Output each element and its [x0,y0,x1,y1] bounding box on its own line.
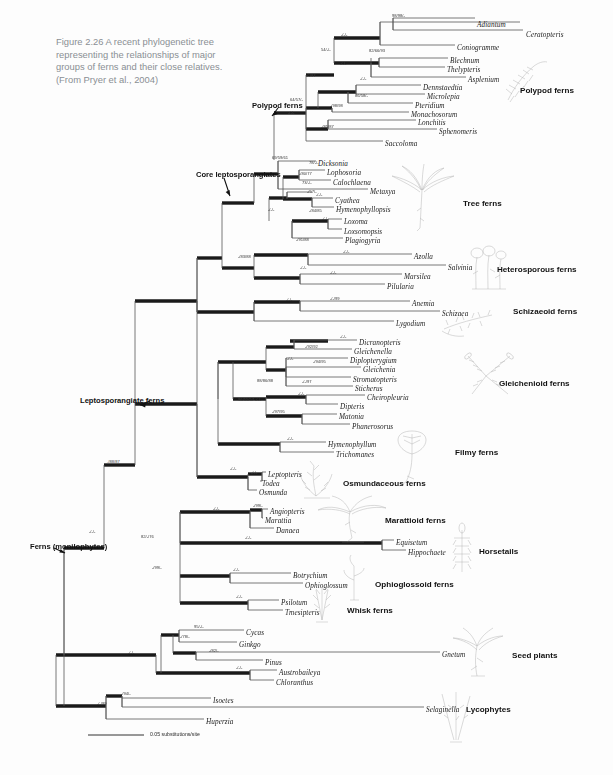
group-label: Seed plants [512,651,557,660]
support-value: -/-/99 [97,701,107,706]
taxon-label: Plagiogyria [345,237,380,245]
filmy-fern-sketch [398,431,426,486]
group-label: Filmy ferns [455,448,498,457]
ophioglossoid-fern-sketch [344,555,364,600]
taxon-label: Hymenophyllum [328,441,376,449]
clade-label: Leptosporangiate ferns [80,396,164,405]
taxon-label: Tmesipteris [285,609,320,617]
support-value: -/-/- [89,529,95,534]
support-value: -/-/99 [330,296,340,301]
support-value: 69/59/61 [272,155,288,160]
taxon-label: Leptopteris [268,471,302,479]
support-value: -/88/87 [107,459,120,464]
taxon-label: Pinus [265,659,282,667]
taxon-label: Hippochaete [408,549,446,557]
taxon-label: Azolla [414,253,433,261]
taxon-label: Trichomanes [336,451,374,459]
taxon-label: Isoetes [213,697,234,705]
scale-bar-label: 0.05 substitutions/site [150,731,200,737]
taxon-label: Adiantum [477,21,506,29]
support-value: -/-/- [300,265,306,270]
support-value: -/-/- [286,297,292,302]
taxon-label: Botrychium [293,572,328,580]
group-label: Whisk ferns [347,606,393,615]
support-value: -/-/97 [306,73,316,78]
taxon-label: Huperzia [206,718,234,726]
support-value: -/-/- [288,110,294,115]
support-value: -/84/85 [309,208,322,213]
taxon-label: Sticherus [355,385,383,393]
support-value: -/82/- [209,648,219,653]
support-value: -/91/88 [296,237,309,242]
group-label: Heterosporous ferns [497,265,577,274]
taxon-label: Psilotum [281,599,307,607]
polypod-fern-sketch [506,62,547,102]
group-label: Tree ferns [463,199,502,208]
taxon-label: Angiopteris [270,508,305,516]
support-value: 96/55/57 [238,397,254,402]
support-value: -/-/- [287,436,293,441]
support-value: 82/66/93 [369,48,385,53]
support-value: -/-/- [251,470,257,475]
taxon-label: Stromatopteris [353,376,397,384]
support-value: -/-/- [230,466,236,471]
support-value: -/-/- [233,567,239,572]
taxon-label: Loxoma [344,218,368,226]
taxon-label: Metaxya [370,188,395,196]
taxon-label: Pilularia [387,283,414,291]
group-label: Lycophytes [466,705,511,714]
taxon-label: Dipteris [340,403,364,411]
taxon-label: Lonchitis [418,119,446,127]
taxon-label: Selaginella [426,706,459,714]
taxon-label: Matonia [339,413,364,421]
taxon-label: Dicksonia [318,160,348,168]
taxon-label: Marsilea [404,273,431,281]
taxon-label: Hymenophyllopsis [336,206,391,214]
support-value: -/-/- [236,594,242,599]
thick-branches [56,38,382,706]
group-label: Osmundaceous ferns [343,479,426,488]
support-value: -/-/- [255,397,261,402]
taxon-label: Gleichenella [354,348,392,356]
horsetail-sketch [453,523,471,572]
support-value: -/-/97 [302,379,312,384]
support-value: -/-/- [128,650,134,655]
clade-label: Polypod ferns [252,101,303,110]
taxon-label: Monachosorum [411,111,457,119]
taxon-label: Schizaea [442,310,468,318]
taxon-label: Salvinia [448,264,472,272]
taxon-label: Coniogramme [457,44,499,52]
taxon-label: Cyathea [335,197,360,205]
taxon-label: Blechnum [450,57,480,65]
support-value: -/-/- [330,270,336,275]
taxon-label: Ophioglossum [305,582,348,590]
support-value: -/80/77 [299,171,312,176]
group-label: Horsetails [479,547,518,556]
support-value: -/-/- [322,216,328,221]
clade-label: Core leptosporangiates [196,170,281,179]
taxon-label: Saccoloma [385,140,417,148]
support-value: 82/-/76 [141,534,154,539]
taxon-label: Lophosoria [327,169,361,177]
support-value: 98/98/- [392,13,405,18]
group-label: Gleichenioid ferns [499,379,570,388]
taxon-label: Diplopterygium [350,357,397,365]
support-value: -/-/- [316,192,322,197]
taxon-label: Asplenium [468,76,499,84]
support-value: 88/86/88 [257,378,273,383]
taxon-label: Marattia [265,517,291,525]
support-value: -/83/88 [238,254,251,259]
taxon-label: Austrobaileya [279,669,320,677]
taxon-label: Phanerosorus [352,423,393,431]
taxon-label: Microlepia [427,93,460,101]
support-value: -/99/- [152,565,162,570]
support-value: -/94/95 [313,359,326,364]
support-value: -/99/- [253,503,263,508]
taxon-label: Lygodium [396,320,425,328]
clade-label: Ferns (monilophytes) [30,542,107,551]
tree-fern-sketch [392,164,454,231]
taxon-label: Sphenomeris [439,128,477,136]
taxon-label: Gnetum [442,651,465,659]
taxon-label: Calochlaena [333,179,371,187]
taxon-label: Dicranopteris [359,339,401,347]
